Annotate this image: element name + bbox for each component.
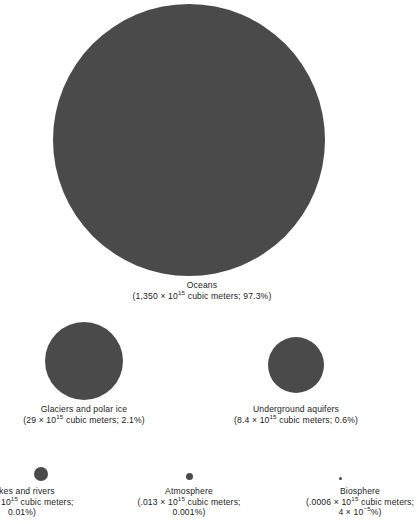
bubble-oceans [53, 4, 325, 276]
lakes-exponent: 15 [11, 495, 18, 502]
bubble-lakes-and-rivers [34, 467, 48, 481]
oceans-detail-post: cubic meters; 97.3%) [185, 291, 271, 301]
glaciers-detail-pre: (29 [23, 415, 38, 425]
biosphere-detail-pre: (.0006 [306, 497, 334, 507]
glaciers-base: 10 [44, 415, 56, 425]
aquifers-detail-pre: (8.4 [234, 415, 252, 425]
label-aquifers-detail: (8.4 × 1015 cubic meters; 0.6%) [126, 415, 418, 426]
aquifers-exponent: 15 [270, 413, 277, 420]
caption-underground-aquifers: Underground aquifers (8.4 × 1015 cubic m… [126, 404, 418, 425]
caption-biosphere: Biosphere (.0006 × 1015 cubic meters; 4 … [245, 486, 418, 518]
biosphere-base: 10 [339, 497, 351, 507]
label-oceans-name: Oceans [0, 280, 404, 291]
bubble-biosphere [339, 477, 342, 480]
label-biosphere-detail: (.0006 × 1015 cubic meters; [245, 497, 418, 508]
label-biosphere-detail-line3: 4 × 10−5%) [245, 507, 418, 518]
biosphere-line3-base: 10 [351, 507, 363, 517]
bubble-glaciers-and-polar-ice [45, 322, 123, 400]
oceans-base: 10 [166, 291, 178, 301]
aquifers-detail-post: cubic meters; 0.6%) [277, 415, 358, 425]
bubble-underground-aquifers [268, 337, 324, 393]
atmosphere-exponent: 15 [178, 495, 185, 502]
atmosphere-detail-post: cubic meters; [185, 497, 241, 507]
lakes-base: 10 [0, 497, 11, 507]
caption-oceans: Oceans (1,350 × 1015 cubic meters; 97.3%… [0, 280, 404, 301]
biosphere-line3-exponent: −5 [363, 505, 370, 512]
label-biosphere-name: Biosphere [245, 486, 418, 497]
atmosphere-detail-pre: (.013 [137, 497, 160, 507]
lakes-detail-post: cubic meters; [18, 497, 74, 507]
aquifers-base: 10 [257, 415, 269, 425]
biosphere-line3-post: %) [371, 507, 382, 517]
bubble-atmosphere [186, 473, 193, 480]
atmosphere-base: 10 [165, 497, 177, 507]
biosphere-line3-pre: 4 [338, 507, 345, 517]
label-oceans-detail: (1,350 × 1015 cubic meters; 97.3%) [0, 291, 404, 302]
oceans-detail-pre: (1,350 [133, 291, 161, 301]
